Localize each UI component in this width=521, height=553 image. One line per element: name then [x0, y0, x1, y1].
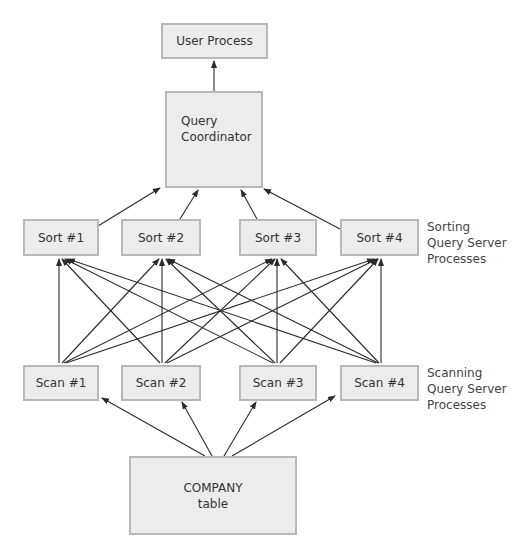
sort-node-label: Sort #2	[138, 231, 184, 245]
scan-node-label: Scan #2	[136, 376, 187, 390]
sorting-label-line3: Processes	[427, 251, 507, 267]
scan-node-label: Scan #1	[36, 376, 87, 390]
scan-node-2: Scan #2	[121, 365, 201, 401]
scanning-label-line1: Scanning	[427, 365, 507, 381]
scanning-label-line3: Processes	[427, 397, 507, 413]
sort-node-4: Sort #4	[340, 219, 419, 256]
scan-node-label: Scan #4	[354, 376, 405, 390]
sort-node-label: Sort #3	[255, 231, 301, 245]
scan-node-4: Scan #4	[340, 365, 419, 401]
query-coordinator-label-line2: Coordinator	[181, 129, 252, 145]
sort-node-1: Sort #1	[23, 219, 99, 256]
scan-node-label: Scan #3	[253, 376, 304, 390]
company-table-label-line2: table	[198, 496, 228, 512]
sorting-processes-label: Sorting Query Server Processes	[427, 219, 507, 267]
sorting-label-line2: Query Server	[427, 235, 507, 251]
user-process-label: User Process	[176, 34, 253, 48]
scanning-label-line2: Query Server	[427, 381, 507, 397]
sorting-label-line1: Sorting	[427, 219, 507, 235]
sort-node-2: Sort #2	[121, 219, 201, 256]
sort-node-label: Sort #4	[356, 231, 402, 245]
query-coordinator-node: Query Coordinator	[165, 91, 263, 188]
scanning-processes-label: Scanning Query Server Processes	[427, 365, 507, 413]
query-coordinator-label-line1: Query	[181, 113, 252, 129]
scan-node-3: Scan #3	[239, 365, 317, 401]
sort-node-3: Sort #3	[239, 219, 317, 256]
company-table-label-line1: COMPANY	[183, 480, 242, 496]
user-process-node: User Process	[161, 23, 268, 59]
company-table-node: COMPANY table	[129, 456, 297, 535]
sort-node-label: Sort #1	[38, 231, 84, 245]
scan-node-1: Scan #1	[23, 365, 99, 401]
